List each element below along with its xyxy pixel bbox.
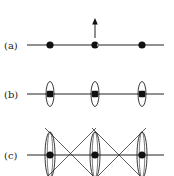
row-a-node-2-crescent-icon: [91, 41, 98, 48]
up-arrow-icon: [92, 18, 98, 38]
row-b-node-2: [91, 82, 99, 107]
row-b-node-3: [138, 82, 146, 107]
row-b: (b): [4, 82, 164, 107]
row-c-label: (c): [4, 150, 18, 161]
row-b-label: (b): [4, 89, 18, 100]
row-c-node-1: [45, 132, 55, 176]
row-c-node-3: [137, 132, 147, 176]
row-a-node-3: [138, 41, 145, 48]
row-b-node-1: [46, 82, 54, 107]
row-a-label: (a): [4, 40, 18, 51]
row-c: (c): [4, 128, 164, 176]
row-a: (a): [4, 18, 164, 51]
lattice-diagram: (a) (b) (c): [0, 0, 174, 176]
row-c-node-2: [90, 132, 100, 176]
row-a-node-1: [46, 41, 53, 48]
